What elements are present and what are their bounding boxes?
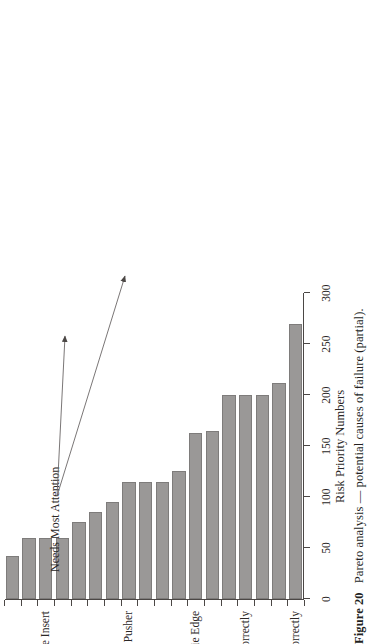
category-tick bbox=[4, 600, 5, 606]
bar bbox=[156, 482, 169, 599]
category-tick bbox=[187, 600, 188, 606]
bar bbox=[206, 431, 219, 599]
category-tick bbox=[171, 600, 172, 606]
value-tick bbox=[304, 445, 310, 446]
category-tick bbox=[304, 600, 305, 606]
bar bbox=[172, 472, 185, 600]
category-label: Chip Braker Angle Ground Incorrectly bbox=[289, 611, 301, 644]
bar bbox=[122, 482, 135, 599]
category-label: Ground Incorrectly bbox=[239, 611, 251, 644]
value-axis-line bbox=[303, 293, 304, 600]
annotation-needs-most-attention: Needs Most Attention bbox=[48, 467, 63, 572]
bar bbox=[239, 395, 252, 599]
value-tick-label: 250 bbox=[320, 335, 332, 352]
category-tick bbox=[21, 600, 22, 606]
value-tick-label: 150 bbox=[320, 437, 332, 454]
category-tick bbox=[71, 600, 72, 606]
value-tick bbox=[304, 292, 310, 293]
category-tick bbox=[104, 600, 105, 606]
category-tick bbox=[254, 600, 255, 606]
bar bbox=[22, 538, 35, 599]
category-tick bbox=[54, 600, 55, 606]
category-tick bbox=[87, 600, 88, 606]
category-tick bbox=[221, 600, 222, 606]
category-tick bbox=[271, 600, 272, 606]
category-tick bbox=[154, 600, 155, 606]
bar bbox=[272, 383, 285, 599]
category-tick bbox=[137, 600, 138, 606]
bar bbox=[222, 395, 235, 599]
value-tick-label: 0 bbox=[320, 596, 332, 602]
category-tick bbox=[204, 600, 205, 606]
category-label: Misaligned Pusher bbox=[122, 611, 134, 644]
category-tick bbox=[121, 600, 122, 606]
value-tick bbox=[304, 394, 310, 395]
value-tick bbox=[304, 598, 310, 599]
value-tick bbox=[304, 343, 310, 344]
value-tick-label: 200 bbox=[320, 386, 332, 403]
bar bbox=[72, 523, 85, 600]
figure-rotated-canvas: 050100150200250300 Chip Braker Angle Gro… bbox=[0, 0, 382, 644]
value-tick-label: 50 bbox=[320, 542, 332, 554]
category-label: Worn/Loose Insert bbox=[39, 611, 51, 644]
figure-number: Figure 20 bbox=[352, 592, 366, 644]
value-tick bbox=[304, 496, 310, 497]
value-tick-label: 300 bbox=[320, 284, 332, 301]
value-tick-label: 100 bbox=[320, 488, 332, 505]
bar bbox=[6, 556, 19, 599]
category-tick bbox=[237, 600, 238, 606]
figure-caption: Figure 20Pareto analysis — potential cau… bbox=[352, 0, 367, 644]
category-label: Sharp Die Edge bbox=[189, 611, 201, 644]
pareto-chart: 050100150200250300 Chip Braker Angle Gro… bbox=[0, 0, 348, 644]
bar bbox=[139, 482, 152, 599]
category-tick bbox=[287, 600, 288, 606]
bar bbox=[106, 502, 119, 599]
category-tick bbox=[37, 600, 38, 606]
bar bbox=[189, 433, 202, 599]
bar bbox=[89, 512, 102, 599]
value-tick bbox=[304, 547, 310, 548]
bar bbox=[256, 395, 269, 599]
value-axis-title: Risk Priority Numbers bbox=[333, 293, 348, 600]
figure-caption-text: Pareto analysis — potential causes of fa… bbox=[352, 308, 366, 583]
bar bbox=[289, 324, 302, 599]
